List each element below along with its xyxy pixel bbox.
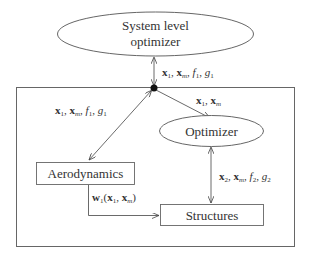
hub-aero-label: x1, xm, f1, g1 bbox=[55, 104, 107, 118]
hub-aero-arrow bbox=[89, 91, 151, 160]
system-optimizer-label-line2: optimizer bbox=[131, 34, 181, 49]
optimizer-structures-label: x2, xm, f2, g2 bbox=[219, 170, 271, 184]
structures-label: Structures bbox=[186, 208, 239, 223]
hub-optimizer-label: x1, xm bbox=[196, 94, 221, 108]
system-hub-label: x1, xm, f1, g1 bbox=[162, 66, 214, 80]
system-optimizer-label-line1: System level bbox=[122, 18, 189, 33]
system-level-optimizer-node: System level optimizer bbox=[58, 12, 254, 56]
optimizer-node: Optimizer bbox=[160, 116, 264, 147]
aerodynamics-label: Aerodynamics bbox=[48, 166, 124, 181]
optimizer-label: Optimizer bbox=[185, 124, 238, 139]
structures-node: Structures bbox=[161, 205, 264, 226]
aerodynamics-node: Aerodynamics bbox=[37, 163, 135, 185]
aero-structures-label: w1(x1, xm) bbox=[92, 191, 136, 205]
mdo-diagram: System level optimizer x1, xm, f1, g1 x1… bbox=[0, 0, 309, 257]
